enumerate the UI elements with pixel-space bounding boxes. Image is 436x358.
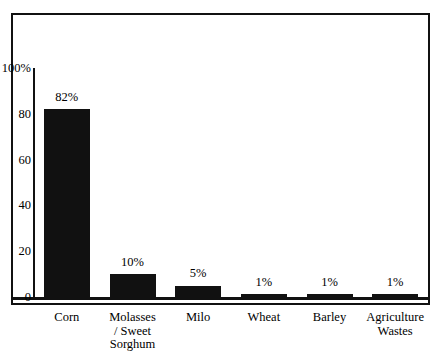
bar-value-label: 1% <box>255 276 272 289</box>
y-axis-tick-label: 40 <box>19 199 32 212</box>
bar-group[interactable]: 1% <box>307 45 353 297</box>
bar[interactable] <box>44 109 90 297</box>
bar[interactable] <box>372 294 418 297</box>
x-axis-baseline <box>13 297 429 300</box>
x-axis-category-label: Agriculture Wastes <box>349 311 436 338</box>
bar[interactable] <box>110 274 156 297</box>
bar[interactable] <box>241 294 287 297</box>
bar-group[interactable]: 5% <box>175 45 221 297</box>
bar-value-label: 10% <box>121 256 144 269</box>
y-axis-tick-label: 0 <box>25 291 31 304</box>
bar-group[interactable]: 10% <box>110 45 156 297</box>
y-axis-tick-label: 20 <box>19 245 32 258</box>
bar-chart-figure: 100%806040200 82%10%5%1%1%1% CornMolasse… <box>0 0 436 358</box>
y-axis-tick-label: 100% <box>2 62 31 75</box>
y-axis-tick-label: 60 <box>19 154 32 167</box>
bar-group[interactable]: 1% <box>372 45 418 297</box>
bars-layer: 82%10%5%1%1%1% <box>34 45 428 297</box>
bar-value-label: 5% <box>190 267 207 280</box>
bar-value-label: 1% <box>321 276 338 289</box>
bar-group[interactable]: 1% <box>241 45 287 297</box>
y-axis-tick-label: 80 <box>19 108 32 121</box>
bar[interactable] <box>307 294 353 297</box>
bar-value-label: 1% <box>387 276 404 289</box>
bar-value-label: 82% <box>55 91 78 104</box>
bar[interactable] <box>175 286 221 297</box>
y-axis-tick-labels: 100%806040200 <box>0 0 31 358</box>
bar-group[interactable]: 82% <box>44 45 90 297</box>
